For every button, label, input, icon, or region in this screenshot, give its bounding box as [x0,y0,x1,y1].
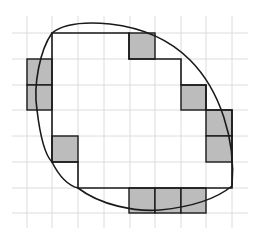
shaded-cell [129,33,155,59]
shaded-cell [181,188,206,213]
shaded-cell [52,136,78,162]
shaded-cell [181,85,206,110]
grid-curve-diagram [0,0,256,237]
diagram-canvas [0,0,256,237]
shaded-cell [206,136,232,162]
shaded-cell [27,85,52,110]
